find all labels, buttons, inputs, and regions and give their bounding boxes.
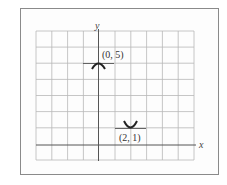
point-label-0-5: (0, 5)	[102, 49, 124, 61]
x-axis-label: x	[198, 139, 204, 150]
point-label-2-1: (2, 1)	[119, 132, 141, 144]
coordinate-plane: x y (0, 5) (2, 1)	[0, 0, 227, 185]
y-axis-label: y	[94, 20, 100, 31]
